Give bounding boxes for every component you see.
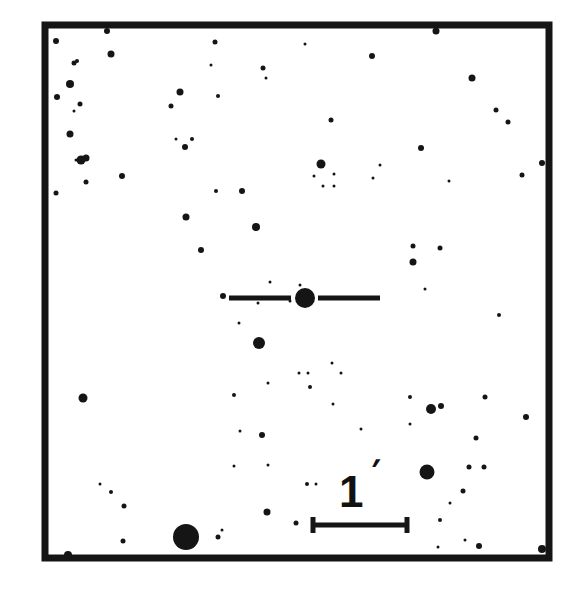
finder-chart [0,0,581,596]
star [122,504,127,509]
star [294,521,299,526]
star [216,94,220,98]
star [333,173,336,176]
star [420,465,435,480]
star [78,102,83,107]
star [372,177,375,180]
star [494,108,499,113]
star [506,120,511,125]
star [265,77,268,80]
star [322,185,325,188]
star [253,337,265,349]
star [298,372,301,375]
star [464,539,467,542]
star [66,80,74,88]
star [438,246,443,251]
star [433,28,440,35]
star [121,539,126,544]
star [418,145,424,151]
star [99,483,102,486]
star [73,110,76,113]
star [340,372,343,375]
star [476,543,482,549]
star [461,489,466,494]
star [411,244,416,249]
star [305,482,309,486]
star [220,293,226,299]
star [267,382,270,385]
star [379,164,382,167]
star [252,223,260,231]
star [538,545,546,553]
star [173,524,199,550]
star [520,173,525,178]
star [329,118,334,123]
star [333,185,336,188]
star [182,144,188,150]
star [108,51,115,58]
star [104,28,110,34]
star [54,191,59,196]
star [483,395,488,400]
star [482,465,487,470]
star [317,160,326,169]
star [307,372,310,375]
star [54,94,60,100]
star [449,502,452,505]
star [261,66,266,71]
star [264,509,271,516]
star [438,403,444,409]
star [190,137,194,141]
star [424,288,427,291]
star [84,180,89,185]
star [523,414,529,420]
star [469,75,476,82]
star [53,38,59,44]
star [497,313,501,317]
star [438,518,442,522]
star [467,465,472,470]
star [267,464,270,467]
star [213,40,218,45]
star [109,490,113,494]
star [221,529,224,532]
star [177,89,184,96]
star [210,64,213,67]
star [216,535,221,540]
star [232,393,236,397]
star [315,483,318,486]
star [259,432,265,438]
star [75,59,79,63]
star [408,395,412,399]
star [313,175,316,178]
star [426,404,436,414]
star [448,180,451,183]
star [75,159,78,162]
star [198,247,204,253]
star [238,322,241,325]
star [360,428,363,431]
target-star [295,288,315,308]
star [257,302,260,305]
star [331,362,334,365]
star [332,403,335,406]
star [437,546,440,549]
star [299,284,302,287]
star [83,155,90,162]
star [308,385,312,389]
star [79,394,88,403]
star [239,430,242,433]
star [269,281,272,284]
star [183,214,190,221]
scale-bar-label: 1 [339,470,363,514]
star [233,465,236,468]
star [474,436,479,441]
star [409,423,412,426]
star [214,189,218,193]
star [539,160,545,166]
star [67,131,74,138]
star [369,53,375,59]
star [410,259,417,266]
star [175,138,178,141]
star [239,188,245,194]
